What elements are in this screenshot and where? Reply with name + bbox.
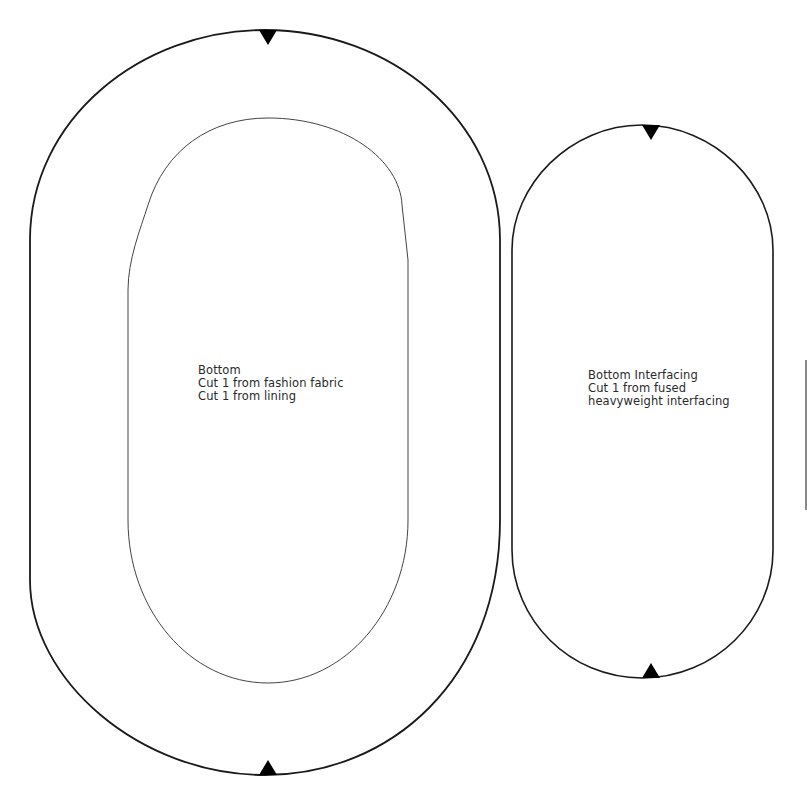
bottom-piece-label: Bottom Cut 1 from fashion fabric Cut 1 f…	[198, 364, 344, 403]
notch-bottom-bottom-piece-icon	[259, 760, 277, 775]
bottom-piece-cut-lining: Cut 1 from lining	[198, 390, 344, 403]
notch-top-bottom-piece-icon	[259, 30, 277, 45]
interfacing-piece-label: Bottom Interfacing Cut 1 from fused heav…	[588, 369, 730, 408]
notch-bottom-interfacing-icon	[642, 663, 660, 678]
notch-top-interfacing-icon	[642, 125, 660, 140]
interfacing-piece-cut-line-2: heavyweight interfacing	[588, 395, 730, 408]
